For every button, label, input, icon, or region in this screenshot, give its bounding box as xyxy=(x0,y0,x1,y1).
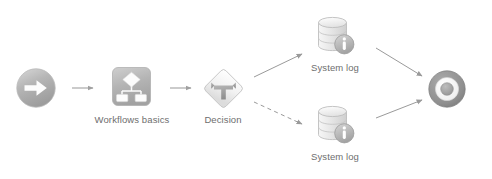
workflow-diagram-icon xyxy=(112,67,151,106)
end-node[interactable] xyxy=(428,70,466,108)
system-log-top-label: System log xyxy=(295,62,375,73)
connector-layer xyxy=(0,0,492,179)
connector-system-log-top-to-end xyxy=(376,48,422,76)
decision-label: Decision xyxy=(183,114,263,125)
system-log-node-top[interactable] xyxy=(314,14,356,56)
decision-node[interactable] xyxy=(203,68,244,109)
system-log-node-bottom[interactable] xyxy=(314,103,356,145)
workflow-diagram-canvas: Workflows basics Decision Sy xyxy=(0,0,492,179)
database-info-icon xyxy=(314,103,356,145)
workflows-basics-node[interactable] xyxy=(112,67,151,106)
connector-system-log-bottom-to-end xyxy=(376,100,422,118)
bullseye-target-icon xyxy=(428,70,466,108)
workflows-basics-label: Workflows basics xyxy=(77,114,187,125)
system-log-bottom-label: System log xyxy=(295,151,375,162)
circle-arrow-right-icon xyxy=(16,68,56,108)
database-info-icon xyxy=(314,14,356,56)
decision-fork-icon xyxy=(203,68,244,109)
start-node[interactable] xyxy=(16,68,56,108)
